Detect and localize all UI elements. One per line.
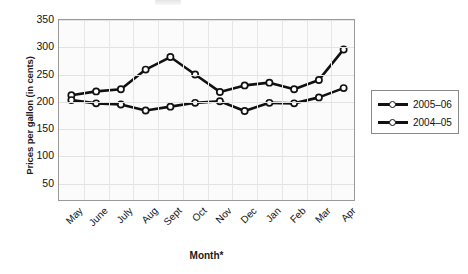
data-point-marker xyxy=(143,66,149,72)
data-point-marker xyxy=(192,100,198,106)
y-tick-label: 350 xyxy=(12,14,54,24)
data-point-marker xyxy=(341,85,347,91)
legend-line-marker-icon xyxy=(378,117,408,127)
gridline-vertical xyxy=(331,20,332,200)
gridline-vertical xyxy=(232,20,233,200)
legend-label: 2005–06 xyxy=(413,99,452,110)
gridline-horizontal xyxy=(59,156,354,157)
x-axis-title: Month* xyxy=(58,250,355,261)
y-axis-tick-labels: 35030025020015010050 xyxy=(8,0,54,274)
cropped-title-remnant xyxy=(155,0,181,5)
y-tick-label: 100 xyxy=(12,150,54,160)
gridline-vertical xyxy=(307,20,308,200)
chart-legend: 2005–06 2004–05 xyxy=(371,90,459,134)
data-point-marker xyxy=(167,104,173,110)
data-point-marker xyxy=(266,80,272,86)
y-tick-label: 50 xyxy=(12,178,54,188)
legend-line-marker-icon xyxy=(378,99,408,109)
legend-item-2004-05[interactable]: 2004–05 xyxy=(378,115,452,129)
gridline-horizontal xyxy=(59,47,354,48)
data-point-marker xyxy=(316,94,322,100)
data-point-marker xyxy=(291,86,297,92)
gridline-horizontal xyxy=(59,184,354,185)
chart-canvas: Prices per gallon (in cents) 35030025020… xyxy=(0,0,468,274)
gridline-horizontal xyxy=(59,20,354,21)
data-point-marker xyxy=(316,77,322,83)
data-point-marker xyxy=(242,108,248,114)
data-point-marker xyxy=(217,89,223,95)
data-point-marker xyxy=(93,88,99,94)
data-point-marker xyxy=(242,82,248,88)
gridline-vertical xyxy=(257,20,258,200)
y-tick-label: 200 xyxy=(12,96,54,106)
gridline-vertical xyxy=(84,20,85,200)
gridline-horizontal xyxy=(59,129,354,130)
gridline-horizontal xyxy=(59,102,354,103)
y-tick-label: 150 xyxy=(12,123,54,133)
legend-item-2005-06[interactable]: 2005–06 xyxy=(378,97,452,111)
gridline-vertical xyxy=(282,20,283,200)
legend-label: 2004–05 xyxy=(413,117,452,128)
data-point-marker xyxy=(167,54,173,60)
plot-area xyxy=(58,19,355,201)
y-tick-label: 250 xyxy=(12,69,54,79)
gridline-vertical xyxy=(109,20,110,200)
gridline-horizontal xyxy=(59,75,354,76)
gridline-vertical xyxy=(133,20,134,200)
gridline-vertical xyxy=(208,20,209,200)
data-point-marker xyxy=(266,100,272,106)
gridline-vertical xyxy=(183,20,184,200)
y-tick-label: 300 xyxy=(12,41,54,51)
data-point-marker xyxy=(143,107,149,113)
gridline-vertical xyxy=(158,20,159,200)
data-point-marker xyxy=(118,86,124,92)
